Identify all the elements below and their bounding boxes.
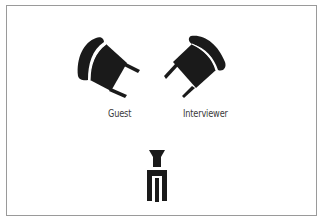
- interviewer-label: Interviewer: [183, 108, 228, 119]
- camera-on-tripod-icon: [147, 150, 167, 202]
- guest-label: Guest: [108, 108, 131, 119]
- guest-chair-icon: [78, 37, 140, 98]
- diagram-canvas: [0, 0, 321, 223]
